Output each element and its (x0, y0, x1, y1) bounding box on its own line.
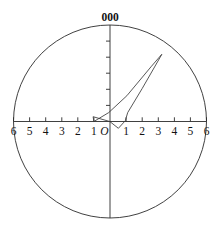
axis-label-left-3: 3 (59, 126, 65, 137)
axis-label-right-3: 3 (155, 126, 161, 137)
axis-label-right-5: 5 (188, 126, 194, 137)
axis-label-right-6: 6 (204, 126, 210, 137)
axis-label-right-4: 4 (172, 126, 178, 137)
axis-label-left-4: 4 (43, 126, 49, 137)
axis-label-left-6: 6 (11, 126, 17, 137)
polar-plot-figure: 000 6 5 4 3 2 1 O 1 2 3 4 5 6 (0, 0, 220, 233)
axis-ticks-vertical (106, 41, 110, 105)
axis-ticks-left (14, 117, 94, 121)
axis-label-left-5: 5 (27, 126, 33, 137)
origin-label: O (100, 126, 108, 137)
axis-label-right-1: 1 (123, 126, 129, 137)
axis-label-left-1: 1 (91, 126, 97, 137)
north-label: 000 (101, 12, 118, 23)
axis-ticks-right (126, 117, 206, 121)
axis-label-left-2: 2 (75, 126, 81, 137)
polar-plot-canvas (0, 0, 220, 233)
axis-label-right-2: 2 (139, 126, 145, 137)
rose-outline-polygon (93, 54, 162, 128)
